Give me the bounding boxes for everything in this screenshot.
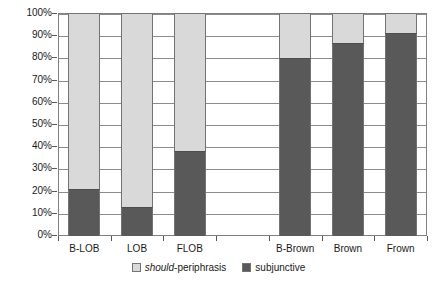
x-tick-mark: [427, 236, 428, 241]
bar-segment-subjunctive: [68, 189, 100, 236]
y-tick-mark: [52, 35, 57, 36]
x-tick-mark: [322, 236, 323, 241]
y-tick-label: 20%: [32, 186, 52, 196]
bar-group: [322, 13, 375, 236]
x-tick-mark: [374, 236, 375, 241]
y-tick-label: 30%: [32, 163, 52, 173]
bar-stack: [121, 13, 153, 236]
y-tick-mark: [52, 13, 57, 14]
bar-segment-should-periphrasis: [332, 13, 364, 43]
bar-stack: [279, 13, 311, 236]
bar-segment-should-periphrasis: [385, 13, 417, 33]
y-tick-mark: [52, 80, 57, 81]
x-axis: B-LOBLOBFLOBB-BrownBrownFrown: [58, 236, 427, 258]
x-tick-label: Brown: [322, 243, 375, 255]
x-tick-mark: [269, 236, 270, 241]
y-tick-mark: [52, 146, 57, 147]
legend-label-rest: -periphrasis: [174, 262, 226, 273]
x-tick-label: FLOB: [163, 243, 216, 255]
y-tick-mark: [52, 191, 57, 192]
x-tick-label: Frown: [374, 243, 427, 255]
stacked-bar-chart: 100% 90% 80% 70% 60% 50% 40% 30% 20% 10%…: [0, 0, 437, 284]
y-tick-mark: [52, 57, 57, 58]
y-axis: 100% 90% 80% 70% 60% 50% 40% 30% 20% 10%…: [0, 13, 52, 236]
bar-segment-should-periphrasis: [174, 13, 206, 151]
legend-item-should-periphrasis: should-periphrasis: [132, 262, 227, 273]
chart-legend: should-periphrasis subjunctive: [0, 259, 437, 275]
legend-label: should-periphrasis: [145, 262, 227, 273]
y-tick-label: 90%: [32, 30, 52, 40]
x-tick-mark: [111, 236, 112, 241]
bar-segment-should-periphrasis: [121, 13, 153, 207]
x-tick-label: B-Brown: [269, 243, 322, 255]
bar-segment-subjunctive: [174, 151, 206, 236]
bars-layer: [58, 13, 427, 236]
bar-group: [163, 13, 216, 236]
y-tick-mark: [52, 235, 57, 236]
bar-segment-should-periphrasis: [68, 13, 100, 189]
bar-segment-subjunctive: [279, 58, 311, 236]
dark-grey-swatch-icon: [242, 263, 251, 272]
bar-segment-subjunctive: [332, 43, 364, 236]
bar-segment-subjunctive: [385, 33, 417, 236]
x-tick-label: B-LOB: [58, 243, 111, 255]
x-tick-mark: [58, 236, 59, 241]
y-tick-mark: [52, 168, 57, 169]
bar-group: [58, 13, 111, 236]
y-tick-label: 10%: [32, 208, 52, 218]
y-tick-mark: [52, 124, 57, 125]
y-tick-label: 0%: [38, 230, 52, 240]
y-tick-label: 60%: [32, 97, 52, 107]
y-tick-label: 70%: [32, 75, 52, 85]
x-tick-label: LOB: [111, 243, 164, 255]
y-tick-label: 50%: [32, 119, 52, 129]
light-grey-swatch-icon: [132, 263, 141, 272]
legend-label-rest: subjunctive: [255, 262, 305, 273]
legend-label: subjunctive: [255, 262, 305, 273]
bar-group: [111, 13, 164, 236]
bar-group: [269, 13, 322, 236]
bar-stack: [332, 13, 364, 236]
x-tick-mark: [216, 236, 217, 241]
y-tick-mark: [52, 102, 57, 103]
bar-stack: [174, 13, 206, 236]
legend-label-italic: should: [145, 262, 174, 273]
y-tick-mark: [52, 213, 57, 214]
bar-stack: [385, 13, 417, 236]
y-tick-label: 80%: [32, 52, 52, 62]
bar-segment-should-periphrasis: [279, 13, 311, 58]
legend-item-subjunctive: subjunctive: [242, 262, 305, 273]
x-tick-mark: [163, 236, 164, 241]
bar-stack: [68, 13, 100, 236]
y-tick-label: 100%: [26, 8, 52, 18]
y-tick-label: 40%: [32, 141, 52, 151]
bar-group: [374, 13, 427, 236]
bar-segment-subjunctive: [121, 207, 153, 236]
